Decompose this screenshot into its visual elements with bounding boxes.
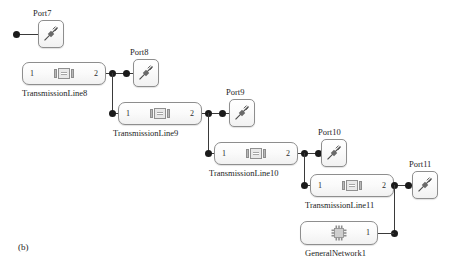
connector-node-tl11-in[interactable] bbox=[301, 182, 308, 189]
block-port11[interactable] bbox=[412, 171, 438, 199]
block-label-port9: Port9 bbox=[226, 87, 244, 97]
wire-tl10-down-to-tl11 bbox=[304, 153, 305, 185]
pin-label-right-tl10: 2 bbox=[286, 150, 290, 158]
wire-tl9-down-to-tl10 bbox=[208, 113, 209, 153]
transmission-line-icon bbox=[54, 68, 74, 79]
wire-tl11-down-to-generalnetwork1 bbox=[394, 185, 395, 233]
block-label-generalnetwork1: GeneralNetwork1 bbox=[305, 248, 366, 258]
port-probe-icon bbox=[230, 100, 254, 126]
block-label-transmissionline10: TransmissionLine10 bbox=[209, 168, 279, 178]
block-generalnetwork1[interactable]: 1 bbox=[300, 221, 378, 245]
transmission-line-icon bbox=[246, 148, 266, 159]
block-port10[interactable] bbox=[321, 139, 347, 167]
block-label-port8: Port8 bbox=[130, 47, 148, 57]
pin-label-left-tl10: 1 bbox=[222, 150, 226, 158]
block-label-port10: Port10 bbox=[318, 127, 341, 137]
block-port9[interactable] bbox=[229, 99, 255, 127]
block-transmissionline10[interactable]: 1 2 bbox=[214, 142, 298, 165]
connector-node-port7[interactable] bbox=[13, 31, 20, 38]
block-label-transmissionline8: TransmissionLine8 bbox=[22, 88, 87, 98]
connector-node-port11-in[interactable] bbox=[405, 182, 412, 189]
pin-label-right-tl9: 2 bbox=[190, 110, 194, 118]
port-probe-icon bbox=[413, 172, 437, 198]
block-transmissionline11[interactable]: 1 2 bbox=[310, 174, 394, 197]
block-transmissionline9[interactable]: 1 2 bbox=[118, 102, 202, 125]
transmission-line-icon bbox=[150, 108, 170, 119]
pin-label-right-tl8: 2 bbox=[94, 70, 98, 78]
block-label-transmissionline9: TransmissionLine9 bbox=[113, 128, 178, 138]
pin-label-left-tl11: 1 bbox=[318, 182, 322, 190]
pin-label-left-tl9: 1 bbox=[126, 110, 130, 118]
connector-node-port9-in[interactable] bbox=[219, 110, 226, 117]
port-probe-icon bbox=[322, 140, 346, 166]
connector-node-tl10-in[interactable] bbox=[205, 150, 212, 157]
block-port8[interactable] bbox=[133, 59, 159, 87]
block-port7[interactable] bbox=[38, 20, 64, 48]
port-probe-icon bbox=[134, 60, 158, 86]
pin-label-right-tl11: 2 bbox=[382, 182, 386, 190]
pin-label-right-generalnetwork1: 1 bbox=[366, 229, 370, 237]
block-label-transmissionline11: TransmissionLine11 bbox=[305, 200, 374, 210]
wire-tl8-down-to-tl9 bbox=[112, 73, 113, 113]
block-transmissionline8[interactable]: 1 2 bbox=[22, 62, 106, 85]
pin-label-left-tl8: 1 bbox=[30, 70, 34, 78]
integrated-circuit-icon bbox=[329, 223, 349, 243]
wire-generalnetwork1-stub bbox=[378, 233, 394, 234]
port-probe-icon bbox=[39, 21, 63, 47]
figure-caption: (b) bbox=[18, 242, 29, 252]
connector-node-tl9-in[interactable] bbox=[109, 110, 116, 117]
connector-node-port8-in[interactable] bbox=[123, 70, 130, 77]
block-label-port7: Port7 bbox=[33, 8, 51, 18]
block-diagram-canvas: Port7 1 2 TransmissionLine8 Port8 bbox=[0, 0, 455, 268]
transmission-line-icon bbox=[342, 180, 362, 191]
block-label-port11: Port11 bbox=[409, 159, 431, 169]
